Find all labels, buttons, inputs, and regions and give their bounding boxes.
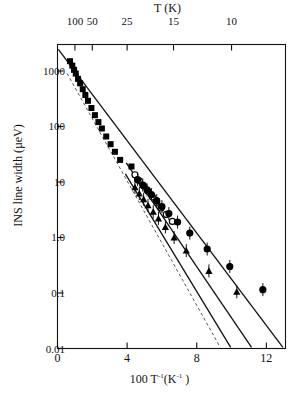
- figure-panel: T (K) 10050251510 1000100101.00.10.01 04…: [0, 0, 297, 397]
- data-point-circle-solid: [175, 219, 181, 225]
- data-point-triangle: [150, 208, 157, 215]
- data-point-square: [88, 105, 94, 111]
- data-point-square: [80, 86, 86, 92]
- data-point-triangle: [144, 202, 151, 209]
- data-point-square: [117, 157, 123, 163]
- data-point-square: [112, 149, 118, 155]
- data-point-square: [99, 125, 105, 131]
- data-point-circle-solid: [159, 204, 165, 210]
- data-point-circle-solid: [204, 246, 210, 252]
- data-point-square: [95, 119, 101, 125]
- data-point-circle-solid: [227, 264, 233, 270]
- data-point-square: [82, 92, 88, 98]
- data-point-circle-solid: [166, 211, 172, 217]
- plot-canvas: [0, 0, 297, 397]
- data-point-circle-solid: [154, 198, 160, 204]
- data-point-circle-solid: [187, 230, 193, 236]
- series-filled-circles: [135, 173, 266, 296]
- model-curve-dashed: [67, 74, 220, 348]
- data-point-circle-solid: [135, 177, 141, 183]
- fit-line-upper: [58, 49, 283, 347]
- data-point-square: [128, 164, 134, 170]
- series-filled-squares: [67, 58, 134, 169]
- data-point-square: [108, 141, 114, 147]
- data-point-square: [85, 98, 91, 104]
- data-point-triangle: [155, 215, 162, 222]
- data-point-square: [103, 134, 109, 140]
- data-point-square: [92, 112, 98, 118]
- plot-frame: [58, 45, 286, 349]
- data-point-square: [73, 71, 79, 77]
- data-point-circle-solid: [148, 192, 154, 198]
- series-filled-triangles: [131, 181, 240, 298]
- data-point-square: [77, 80, 83, 86]
- data-point-triangle: [205, 267, 212, 274]
- data-point-circle-solid: [260, 287, 266, 293]
- fit-line-lower: [125, 174, 230, 347]
